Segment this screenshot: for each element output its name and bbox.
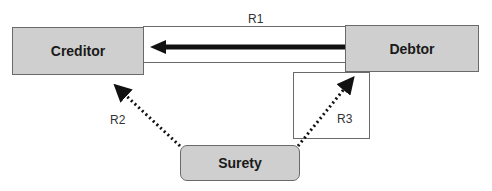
diagram-arrows xyxy=(0,0,492,191)
relation-r2-label: R2 xyxy=(110,113,125,127)
r2-arrow xyxy=(120,90,180,146)
r1-arrowhead xyxy=(150,40,166,54)
relation-r3-label: R3 xyxy=(337,112,352,126)
relation-r1-label: R1 xyxy=(248,12,263,26)
